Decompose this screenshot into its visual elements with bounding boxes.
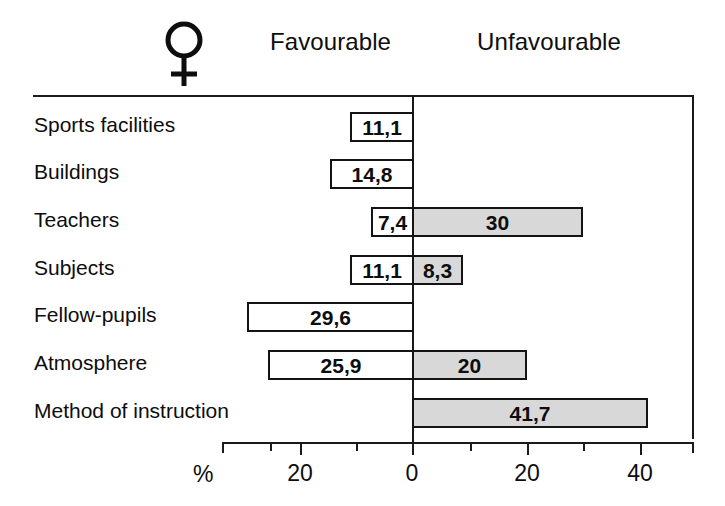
axis-tick-right-end [692,442,694,453]
legend-label-favourable: Favourable [270,28,391,56]
bar-unfavourable: 20 [412,350,527,380]
bar-unfavourable: 41,7 [412,398,648,428]
bar-value-label: 20 [414,352,525,378]
axis-tick-label: 40 [627,460,653,487]
category-label: Method of instruction [34,391,229,431]
bar-value-label: 7,4 [373,209,412,235]
axis-tick-minor [356,442,358,451]
axis-tick-minor [470,442,472,451]
bar-favourable: 29,6 [247,302,414,332]
bar-value-label: 14,8 [332,161,412,187]
axis-tick-major [300,442,302,455]
bar-value-label: 41,7 [414,400,646,426]
bar-unfavourable: 30 [412,207,583,237]
category-label: Atmosphere [34,343,147,383]
axis-tick-label: 20 [514,460,540,487]
category-label: Teachers [34,200,119,240]
axis-tick-left-end [222,442,224,453]
category-label: Sports facilities [34,105,175,145]
bar-favourable: 11,1 [350,255,414,285]
bar-value-label: 30 [414,209,581,235]
chart-figure: Favourable Unfavourable Sports facilitie… [0,0,725,506]
bar-value-label: 11,1 [352,257,412,283]
axis-tick-label: 0 [406,460,419,487]
bar-favourable: 25,9 [268,350,414,380]
bar-value-label: 11,1 [352,114,412,140]
bar-value-label: 8,3 [414,257,461,283]
bar-favourable: 14,8 [330,159,414,189]
axis-tick-minor [270,442,272,451]
axis-tick-major [527,442,529,455]
axis-tick-minor [583,442,585,451]
chart-frame-right [692,95,694,439]
chart-frame-top [33,95,694,97]
axis-tick-label: 20 [287,460,313,487]
axis-unit-label: % [193,461,213,488]
legend-label-unfavourable: Unfavourable [477,28,621,56]
category-label: Subjects [34,248,115,288]
x-axis-line [222,442,693,444]
bar-favourable: 11,1 [350,112,414,142]
category-label: Fellow-pupils [34,295,157,335]
bar-unfavourable: 8,3 [412,255,463,285]
bar-value-label: 29,6 [249,304,412,330]
axis-tick-major [412,442,414,455]
bar-value-label: 25,9 [270,352,412,378]
female-symbol-icon [160,18,208,90]
bar-favourable: 7,4 [371,207,414,237]
axis-tick-major [640,442,642,455]
category-label: Buildings [34,152,119,192]
